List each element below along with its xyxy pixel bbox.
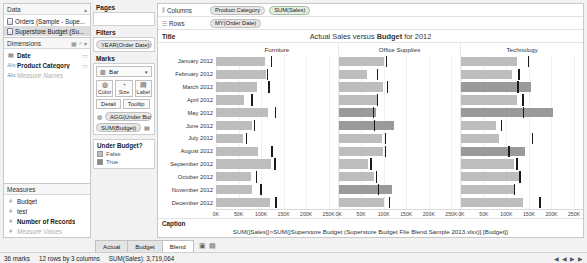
legend-item-false[interactable]: False [97, 150, 151, 158]
bar[interactable] [339, 172, 374, 181]
bar[interactable] [216, 108, 268, 117]
bar[interactable] [216, 57, 265, 66]
bar[interactable] [216, 95, 244, 104]
tab-budget[interactable]: Budget [127, 240, 163, 252]
bar[interactable] [216, 147, 258, 156]
dimension-measure-names[interactable]: Abc Measure Names [4, 70, 90, 80]
field-menu-icon[interactable]: ▭ [82, 62, 88, 69]
bar[interactable] [216, 121, 252, 130]
measure-number-of-records[interactable]: # Number of Records [4, 216, 90, 226]
budget-reference-line [275, 107, 276, 118]
budget-reference-line [508, 146, 509, 157]
filters-shelf[interactable]: YEAR(Order Date): 2012 [93, 37, 155, 52]
bar[interactable] [216, 70, 266, 79]
mark-pill-label-row: SUM(Budget) ▤ [96, 123, 152, 132]
size-button[interactable]: ◔ Size [115, 80, 132, 97]
bar[interactable] [339, 147, 383, 156]
nav-prev-icon[interactable]: ◀ [561, 255, 567, 262]
bar[interactable] [461, 121, 496, 130]
bar[interactable] [339, 121, 394, 130]
field-menu-icon[interactable]: ▭ [82, 52, 88, 59]
bar[interactable] [339, 70, 367, 79]
rows-shelf[interactable]: ☰ Rows MY(Order Date) [158, 17, 583, 30]
legend-item-true[interactable]: True [97, 158, 151, 166]
dimension-product-category[interactable]: Abc Product Category ▭ [4, 60, 90, 70]
bar[interactable] [461, 134, 499, 143]
budget-reference-line [246, 133, 247, 144]
bar[interactable] [461, 159, 514, 168]
bar[interactable] [461, 172, 519, 181]
bar[interactable] [339, 82, 384, 91]
bar[interactable] [339, 57, 385, 66]
axis-tick-label: 150K [400, 211, 412, 217]
bar[interactable] [339, 108, 376, 117]
tooltip-button[interactable]: Tooltip [123, 99, 150, 109]
column-pill-product-category[interactable]: Product Category [210, 6, 265, 15]
data-source-superstore-budget[interactable]: Superstore Budget (Su... [4, 26, 90, 36]
columns-shelf[interactable]: ⫼ Columns Product Category SUM(Sales) [158, 4, 583, 17]
measure-budget[interactable]: # Budget [4, 196, 90, 206]
bar-row [461, 106, 583, 119]
grid-icon[interactable]: ▦ [71, 40, 77, 47]
mark-type-selector[interactable]: ▥ Bar ▾ [96, 66, 152, 77]
chart-title-suffix: for 2012 [402, 32, 431, 41]
bar[interactable] [461, 198, 522, 207]
tab-actual[interactable]: Actual [95, 240, 128, 252]
color-button[interactable]: ◍ Color [96, 80, 113, 97]
measure-measure-values[interactable]: # Measure Values [4, 226, 90, 236]
budget-reference-line [376, 171, 377, 182]
bar[interactable] [461, 57, 516, 66]
color-icon: ◍ [102, 82, 108, 88]
nav-last-icon[interactable]: ▶ [577, 255, 583, 262]
bar-row [339, 170, 461, 183]
bar[interactable] [461, 108, 553, 117]
bar[interactable] [216, 198, 270, 207]
data-source-orders[interactable]: Orders (Sample - Supe... [4, 16, 90, 26]
mark-pill-under-budget[interactable]: AGG(Under Budget... [105, 112, 152, 121]
bar[interactable] [216, 185, 252, 194]
bar[interactable] [461, 70, 512, 79]
status-rows-columns: 12 rows by 3 columns [39, 255, 100, 262]
chevron-down-icon[interactable]: ▾ [145, 69, 148, 75]
bar[interactable] [461, 147, 525, 156]
plot-region [216, 55, 338, 209]
column-pill-sum-sales[interactable]: SUM(Sales) [269, 6, 310, 15]
label-button[interactable]: ▤ Label [135, 80, 152, 97]
detail-button[interactable]: Detail [96, 99, 121, 109]
new-sheet-icon[interactable]: ▣ [199, 242, 206, 250]
chevron-down-icon[interactable]: ▾ [84, 40, 87, 47]
bar[interactable] [461, 82, 531, 91]
viz-title-bar[interactable]: Title Actual Sales versus Budget for 201… [158, 30, 583, 43]
pages-shelf[interactable] [93, 12, 155, 26]
new-dashboard-icon[interactable]: ▤ [209, 242, 216, 250]
mark-pill-sum-budget[interactable]: SUM(Budget) [96, 123, 141, 132]
bar[interactable] [339, 159, 369, 168]
bar[interactable] [339, 198, 385, 207]
bar[interactable] [216, 134, 243, 143]
nav-first-icon[interactable]: ◀ [553, 255, 559, 262]
bar[interactable] [461, 185, 513, 194]
bar[interactable] [216, 82, 257, 91]
search-icon[interactable]: ⌕ [79, 40, 82, 47]
bar[interactable] [339, 95, 377, 104]
dimension-date[interactable]: ▤ Date ▭ [4, 50, 90, 60]
bar-row [461, 196, 583, 209]
bar[interactable] [216, 172, 251, 181]
bar-row [461, 68, 583, 81]
bar[interactable] [339, 185, 392, 194]
row-pill-my-order-date[interactable]: MY(Order Date) [210, 19, 261, 28]
tab-blend[interactable]: Blend [162, 240, 194, 252]
nav-next-icon[interactable]: ▶ [569, 255, 575, 262]
bar-row [461, 145, 583, 158]
measure-test[interactable]: # test [4, 206, 90, 216]
bar[interactable] [216, 159, 271, 168]
budget-reference-line [514, 184, 515, 195]
data-pane-collapse-icon[interactable]: ▴ [84, 6, 87, 13]
bar[interactable] [339, 134, 382, 143]
bar-row [461, 158, 583, 171]
status-nav-buttons[interactable]: ◀ ◀ ▶ ▶ [553, 255, 583, 262]
bar-row [339, 81, 461, 94]
bar[interactable] [461, 95, 517, 104]
filter-pill-year-order-date[interactable]: YEAR(Order Date): 2012 [96, 40, 152, 49]
bar-row [216, 196, 338, 209]
